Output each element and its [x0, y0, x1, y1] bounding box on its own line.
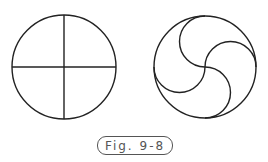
- circle-cross-diagram: [12, 15, 116, 119]
- pinwheel-circle-diagram: [154, 16, 256, 118]
- figure-caption: Fig. 9-8: [97, 136, 173, 155]
